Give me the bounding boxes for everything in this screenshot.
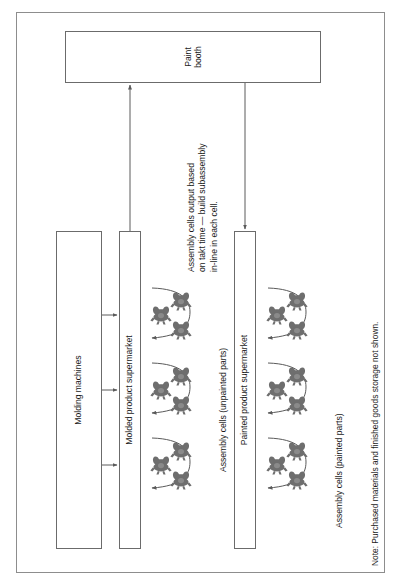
molding-machines-label: Molding machines xyxy=(73,240,85,540)
paint-booth-label: Paint booth xyxy=(183,0,203,117)
diagram-canvas: Paint booth Molding machines Molded prod… xyxy=(0,0,402,588)
footer-note: Note: Purchased materials and finished g… xyxy=(370,322,381,566)
molded-product-supermarket-box: Molded product supermarket xyxy=(119,231,141,549)
assembly-cells-painted-label: Assembly cells (painted parts) xyxy=(334,413,345,528)
molded-product-supermarket-label: Molded product supermarket xyxy=(124,240,136,540)
molding-machines-box: Molding machines xyxy=(56,231,102,549)
paint-booth-box: Paint booth xyxy=(65,31,321,83)
takt-time-annotation: Assembly cells output based on takt time… xyxy=(186,144,220,273)
painted-product-supermarket-label: Painted product supermarket xyxy=(239,240,251,540)
painted-product-supermarket-box: Painted product supermarket xyxy=(234,231,256,549)
assembly-cells-unpainted-label: Assembly cells (unpainted parts) xyxy=(218,348,229,472)
